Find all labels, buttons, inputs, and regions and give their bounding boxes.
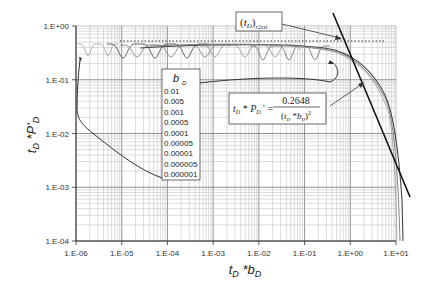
- y-tick-label: 1.E-01: [45, 76, 69, 85]
- legend-entry: 0.000005: [164, 160, 198, 169]
- x-tick-label: 1.E-03: [201, 249, 225, 258]
- legend-entry: 0.0005: [164, 118, 189, 127]
- x-tick-label: 1.E-02: [247, 249, 271, 258]
- legend-entry: 0.0001: [164, 129, 189, 138]
- legend-entry: 0.005: [164, 97, 185, 106]
- x-tick-label: 1.E-05: [110, 249, 134, 258]
- svg-text:0.2648: 0.2648: [282, 95, 310, 106]
- x-tick-label: 1.E-06: [64, 249, 88, 258]
- svg-text:(tD *bD)2: (tD *bD)2: [281, 110, 311, 122]
- legend: bD0.010.0050.0010.00050.00010.000050.000…: [162, 69, 200, 180]
- y-tick-label: 1.E-02: [45, 130, 69, 139]
- x-tick-label: 1.E-04: [156, 249, 180, 258]
- legend-entry: 0.001: [164, 108, 185, 117]
- y-tick-label: 1.E+00: [43, 22, 69, 31]
- chart: 1.E-061.E-051.E-041.E-031.E-021.E-011.E+…: [0, 0, 432, 291]
- y-tick-label: 1.E-04: [45, 237, 69, 246]
- svg-text:D: D: [182, 80, 187, 86]
- x-axis-title: tD *bD: [229, 262, 262, 279]
- legend-entry: 0.00001: [164, 149, 193, 158]
- legend-entry: 0.00005: [164, 139, 193, 148]
- legend-entry: 0.000001: [164, 170, 198, 179]
- x-tick-label: 1.E-01: [293, 249, 317, 258]
- steady-state-asymptote-line: [333, 13, 410, 197]
- x-tick-label: 1.E+00: [337, 249, 363, 258]
- legend-title: b: [173, 72, 179, 84]
- legend-entry: 0.01: [164, 87, 180, 96]
- x-tick-label: 1.E+01: [383, 249, 409, 258]
- y-tick-label: 1.E-03: [45, 183, 69, 192]
- curve-bd-0.01: [185, 62, 338, 85]
- y-axis-title: tD *P'D: [24, 116, 41, 153]
